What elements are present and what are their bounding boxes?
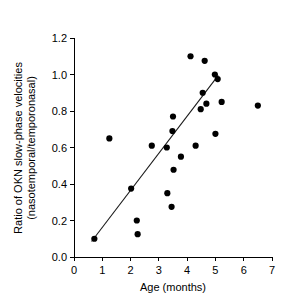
- x-tick-label: 4: [184, 264, 190, 276]
- y-axis-title: Ratio of OKN slow-phase velocities (naso…: [12, 62, 37, 234]
- data-point: [203, 101, 209, 107]
- data-point: [164, 144, 170, 150]
- data-point: [149, 143, 155, 149]
- data-point: [178, 154, 184, 160]
- y-tick-label: 0.8: [52, 105, 67, 117]
- data-point: [170, 113, 176, 119]
- data-point: [202, 58, 208, 64]
- data-point: [212, 131, 218, 137]
- data-point: [200, 90, 206, 96]
- data-point: [91, 236, 97, 242]
- data-point: [219, 99, 225, 105]
- data-point: [170, 167, 176, 173]
- x-tick-label: 3: [156, 264, 162, 276]
- x-tick-label: 1: [99, 264, 105, 276]
- data-point: [128, 185, 134, 191]
- data-point: [134, 217, 140, 223]
- data-point: [169, 128, 175, 134]
- x-tick-label: 0: [71, 264, 77, 276]
- x-axis-title-text: Age (months): [140, 281, 206, 293]
- scatter-plot: 0.00.20.40.60.81.01.2 01234567 Ratio of …: [0, 0, 290, 302]
- data-point: [164, 190, 170, 196]
- y-axis-title-line1: Ratio of OKN slow-phase velocities: [12, 62, 24, 234]
- data-point: [215, 76, 221, 82]
- x-tick-label: 5: [212, 264, 218, 276]
- data-point: [198, 106, 204, 112]
- data-point: [106, 135, 112, 141]
- x-tick-label: 6: [241, 264, 247, 276]
- y-tick-label: 1.0: [52, 69, 67, 81]
- data-point: [135, 231, 141, 237]
- y-tick-label: 0.0: [52, 251, 67, 263]
- y-tick-label: 0.6: [52, 142, 67, 154]
- data-point: [193, 143, 199, 149]
- data-point: [187, 53, 193, 59]
- y-tick-label: 0.2: [52, 215, 67, 227]
- x-tick-label: 7: [269, 264, 275, 276]
- y-axis-title-line2: (nasotemporal/temporonasal): [25, 76, 37, 220]
- y-tick-label: 0.4: [52, 178, 67, 190]
- figure-container: 0.00.20.40.60.81.01.2 01234567 Ratio of …: [0, 0, 290, 302]
- y-tick-label: 1.2: [52, 32, 67, 44]
- x-tick-label: 2: [128, 264, 134, 276]
- x-axis-title: Age (months): [140, 281, 206, 293]
- data-point: [255, 102, 261, 108]
- data-point: [168, 204, 174, 210]
